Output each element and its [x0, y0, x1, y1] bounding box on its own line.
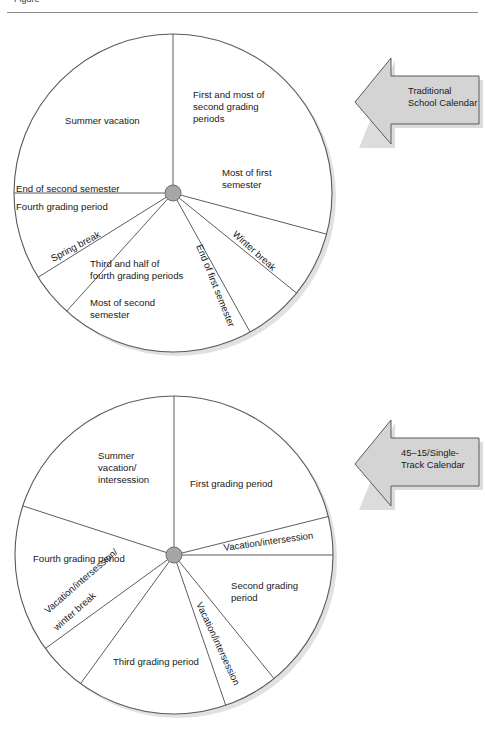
figure-traditional-calendar: First and most ofsecond gradingperiodsMo… — [0, 20, 485, 365]
pie-label: semester — [222, 179, 262, 190]
pie-label: Fourth grading period — [16, 201, 108, 212]
pie-label: period — [231, 592, 258, 603]
pie-label: Second grading — [231, 580, 298, 591]
pie-label: second grading — [193, 101, 259, 112]
pie-hub — [165, 185, 181, 201]
pie-label: Third and half of — [90, 258, 160, 269]
pie-label: First grading period — [190, 478, 273, 489]
pie-label: Third grading period — [113, 656, 199, 667]
pie-label: Most of second — [90, 297, 155, 308]
pie-label: End of second semester — [16, 183, 120, 194]
pie-label: Most of first — [222, 167, 272, 178]
callout-label-traditional: Traditional School Calendar — [408, 85, 485, 110]
callout-label-single-track: 45–15/Single- Track Calendar — [401, 447, 485, 472]
cropped-figure-caption: Figure — [14, 0, 40, 8]
figure-single-track-calendar: Summervacation/intersessionFirst grading… — [0, 382, 485, 727]
pie-label: periods — [193, 113, 225, 124]
header-divider — [7, 12, 478, 13]
callout-traditional: Traditional School Calendar — [351, 56, 483, 148]
pie-label: semester — [90, 309, 130, 320]
figure-page: Figure First and most ofsecond gradingpe… — [0, 0, 485, 739]
pie-label: fourth grading periods — [90, 270, 184, 281]
pie-label: vacation/ — [98, 462, 137, 473]
pie-label: Summer — [98, 450, 135, 461]
callout-single-track: 45–15/Single- Track Calendar — [351, 418, 483, 510]
pie-hub — [166, 547, 182, 563]
pie-label: intersession — [98, 474, 149, 485]
pie-label: Summer vacation — [65, 115, 140, 126]
pie-label: First and most of — [193, 89, 265, 100]
